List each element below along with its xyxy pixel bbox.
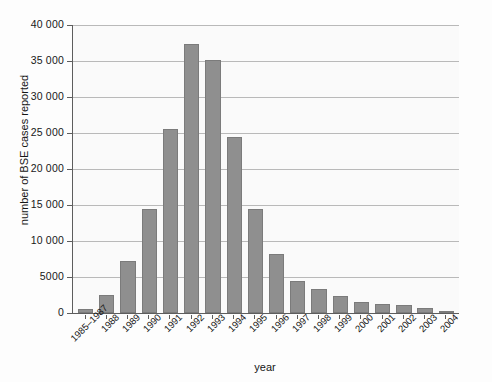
bar bbox=[290, 281, 305, 313]
bar-slot bbox=[245, 25, 266, 313]
x-axis-tick: 2004 bbox=[435, 315, 456, 367]
x-axis-tick: 2002 bbox=[392, 315, 413, 367]
bar-slot bbox=[181, 25, 202, 313]
bar-slot bbox=[96, 25, 117, 313]
bar-slot bbox=[139, 25, 160, 313]
bar-slot bbox=[436, 25, 457, 313]
bar-slot bbox=[224, 25, 245, 313]
x-axis-tick: 2001 bbox=[371, 315, 392, 367]
x-axis-tick: 1990 bbox=[138, 315, 159, 367]
x-axis-title: year bbox=[72, 361, 458, 373]
bar-slot bbox=[308, 25, 329, 313]
bar bbox=[142, 209, 157, 313]
x-axis-tick: 2000 bbox=[350, 315, 371, 367]
bar-slot bbox=[393, 25, 414, 313]
bar bbox=[120, 261, 135, 313]
x-axis-tick: 1989 bbox=[116, 315, 137, 367]
bar-slot bbox=[266, 25, 287, 313]
x-axis-tick: 1985–1987 bbox=[74, 315, 95, 367]
bar-slot bbox=[117, 25, 138, 313]
bse-cases-bar-chart: number of BSE cases reported 0500010 000… bbox=[0, 0, 492, 382]
bar-slot bbox=[372, 25, 393, 313]
x-axis-tick: 1995 bbox=[244, 315, 265, 367]
x-axis-tick-group: 1985–19871988198919901991199219931994199… bbox=[72, 315, 458, 367]
y-axis-tick-label: 20 000 bbox=[24, 162, 64, 174]
x-axis-tick: 1999 bbox=[329, 315, 350, 367]
plot-area bbox=[72, 25, 459, 314]
bar bbox=[163, 129, 178, 313]
y-axis-tick-label: 0 bbox=[24, 306, 64, 318]
bar-series bbox=[73, 25, 459, 313]
bar bbox=[269, 254, 284, 313]
bar bbox=[248, 209, 263, 313]
bar bbox=[311, 289, 326, 313]
bar-slot bbox=[160, 25, 181, 313]
y-axis-tick-label: 30 000 bbox=[24, 90, 64, 102]
y-axis-tick-label: 40 000 bbox=[24, 18, 64, 30]
x-axis-tick: 1997 bbox=[286, 315, 307, 367]
y-axis-title: number of BSE cases reported bbox=[18, 50, 30, 250]
bar-slot bbox=[351, 25, 372, 313]
x-axis-tick: 1994 bbox=[223, 315, 244, 367]
y-axis-tick-label: 25 000 bbox=[24, 126, 64, 138]
x-axis-tick: 1991 bbox=[159, 315, 180, 367]
x-axis-tick: 1988 bbox=[95, 315, 116, 367]
y-axis-tick-label: 5000 bbox=[24, 270, 64, 282]
bar bbox=[205, 60, 220, 313]
x-axis-tick: 2003 bbox=[414, 315, 435, 367]
bar-slot bbox=[202, 25, 223, 313]
bar-slot bbox=[415, 25, 436, 313]
bar-slot bbox=[75, 25, 96, 313]
bar-slot bbox=[287, 25, 308, 313]
x-axis-tick: 1996 bbox=[265, 315, 286, 367]
y-axis-tick-label: 10 000 bbox=[24, 234, 64, 246]
bar-slot bbox=[330, 25, 351, 313]
y-axis-tick-label: 35 000 bbox=[24, 54, 64, 66]
bar bbox=[227, 137, 242, 313]
x-axis-tick: 1992 bbox=[180, 315, 201, 367]
y-axis-tick-label: 15 000 bbox=[24, 198, 64, 210]
x-axis-tick-label: 2004 bbox=[438, 312, 461, 335]
x-axis-tick: 1998 bbox=[307, 315, 328, 367]
bar bbox=[184, 44, 199, 313]
x-axis-tick: 1993 bbox=[201, 315, 222, 367]
